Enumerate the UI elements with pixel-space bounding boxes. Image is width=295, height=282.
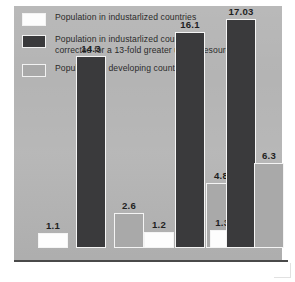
bar-g1-developing <box>114 213 144 248</box>
bar-label-g2-industrialized: 1.2 <box>152 219 166 230</box>
scan-corner-artifact <box>274 263 291 278</box>
bar-label-g1-industrialized: 1.1 <box>46 220 60 231</box>
bar-label-g3-corrected: 17.03 <box>228 6 253 17</box>
bar-chart-figure: Population in industarlized countries Po… <box>0 0 295 282</box>
bar-label-g1-corrected: 14.3 <box>81 43 100 54</box>
bar-g2-industrialized <box>144 232 174 248</box>
bar-g1-corrected <box>76 56 106 248</box>
bars-area: 1.1 14.3 2.6 1.2 16.1 4.8 1.31 17.03 6.3 <box>14 6 282 260</box>
bar-label-g2-corrected: 16.1 <box>180 19 199 30</box>
bar-g1-industrialized <box>38 233 68 248</box>
bar-label-g3-developing: 6.3 <box>262 150 276 161</box>
baseline-axis <box>14 260 288 262</box>
bar-label-g1-developing: 2.6 <box>122 200 136 211</box>
bar-g3-developing <box>254 163 284 248</box>
bar-g3-corrected <box>226 19 256 248</box>
bar-g2-corrected <box>175 32 205 248</box>
